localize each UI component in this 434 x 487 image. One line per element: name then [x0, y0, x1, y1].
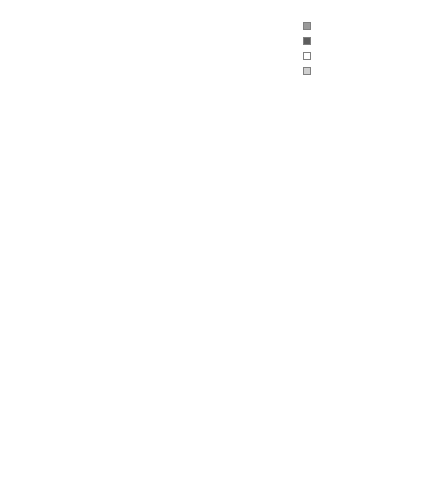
figure-page	[0, 0, 434, 487]
chart-title-1990s	[55, 262, 295, 274]
chart-panel-1980s	[0, 0, 434, 240]
plot-area-1990s	[45, 276, 375, 438]
plot-area-1980s	[45, 40, 375, 202]
chart-panel-1990s	[0, 245, 434, 487]
chart-title-1980s	[55, 26, 295, 38]
